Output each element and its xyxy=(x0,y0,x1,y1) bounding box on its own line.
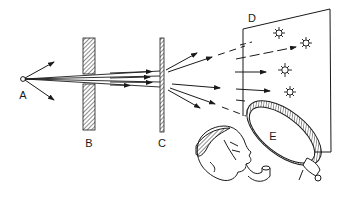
ray-down-arrow xyxy=(25,80,54,100)
label-d: D xyxy=(248,13,256,24)
label-b: B xyxy=(85,138,92,149)
foil-c xyxy=(160,38,164,132)
diagram-canvas xyxy=(0,0,344,198)
label-e: E xyxy=(269,131,276,142)
magnifier-e xyxy=(236,89,332,181)
source-point-icon xyxy=(21,77,26,82)
barrier-b xyxy=(83,38,95,130)
ray-up-arrow xyxy=(25,62,54,78)
scattered-rays xyxy=(166,46,246,116)
label-a: A xyxy=(19,90,26,101)
flash-icon xyxy=(273,27,312,98)
label-c: C xyxy=(158,138,166,149)
